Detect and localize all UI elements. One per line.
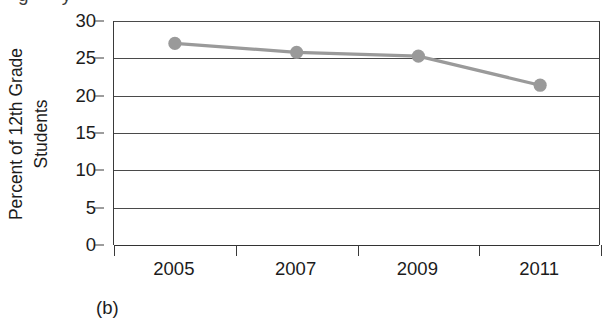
- y-axis-title-line2: Students: [29, 48, 54, 220]
- x-tick-mark: [479, 245, 480, 256]
- y-tick-mark: [95, 21, 104, 22]
- series-polyline: [175, 43, 540, 85]
- figure-panel-b: g y Percent of 12th Grade Students 05101…: [0, 0, 611, 333]
- x-tick-mark: [358, 245, 359, 256]
- y-axis-title: Percent of 12th Grade Students: [0, 0, 58, 268]
- data-point-marker: [412, 49, 425, 62]
- x-tick-label: 2007: [275, 258, 316, 280]
- y-tick-label: 15: [75, 122, 96, 144]
- y-tick-label: 25: [75, 47, 96, 69]
- y-tick-mark: [95, 58, 104, 59]
- x-tick-mark: [236, 245, 237, 256]
- x-tick-label: 2005: [153, 258, 194, 280]
- data-point-marker: [290, 46, 303, 59]
- plot-area: [113, 21, 600, 245]
- gridline: [114, 245, 599, 246]
- y-tick-mark: [95, 207, 104, 208]
- y-tick-mark: [95, 95, 104, 96]
- x-axis-labels: 2005200720092011: [113, 258, 600, 284]
- data-series-line: [114, 21, 601, 245]
- y-tick-label: 10: [75, 159, 96, 181]
- y-axis-ticks: 051015202530: [58, 0, 104, 333]
- data-point-marker: [168, 37, 181, 50]
- y-tick-mark: [95, 170, 104, 171]
- x-tick-label: 2011: [519, 258, 559, 280]
- figure-caption: (b): [96, 297, 119, 319]
- y-tick-mark: [95, 133, 104, 134]
- y-tick-label: 30: [75, 10, 96, 32]
- x-tick-mark: [601, 245, 602, 256]
- x-tick-mark: [114, 245, 115, 256]
- y-axis-title-line1: Percent of 12th Grade: [6, 48, 26, 220]
- data-point-marker: [534, 79, 547, 92]
- y-tick-mark: [95, 245, 104, 246]
- y-tick-label: 20: [75, 85, 96, 107]
- x-tick-label: 2009: [397, 258, 438, 280]
